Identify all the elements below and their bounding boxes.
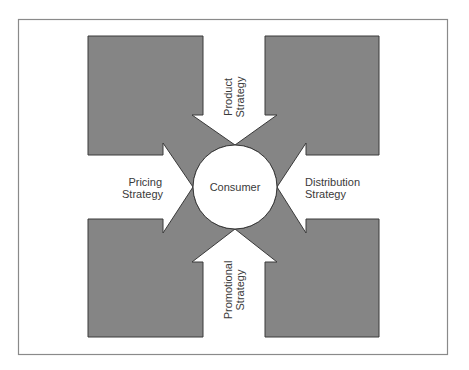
distribution-strategy-line2: Strategy [305,188,346,200]
consumer-label: Consumer [210,181,261,193]
marketing-strategy-diagram: Consumer Product Strategy Pricing Strate… [0,0,469,370]
promotional-strategy-line1: Promotional [222,261,234,320]
distribution-strategy-line1: Distribution [305,176,360,188]
pricing-strategy-line1: Pricing [128,176,162,188]
product-strategy-label: Product Strategy [222,76,246,117]
promotional-strategy-line2: Strategy [234,269,246,310]
product-strategy-line1: Product [222,78,234,116]
product-strategy-line2: Strategy [234,76,246,117]
pricing-strategy-line2: Strategy [122,188,163,200]
